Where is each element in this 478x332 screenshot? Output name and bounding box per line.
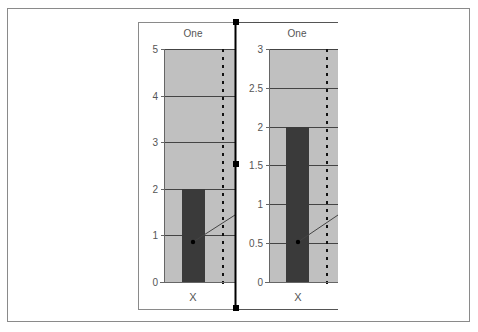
resize-handle-middle[interactable]: [233, 161, 239, 167]
left-chart: One 5 4 3 2 1 0: [139, 23, 236, 310]
left-marker-dot: [191, 240, 195, 244]
tick-label: 5: [152, 44, 158, 55]
right-chart-title: One: [288, 28, 307, 39]
tick-label: 2: [152, 184, 158, 195]
resize-handle-bottom[interactable]: [233, 305, 239, 311]
tick-label: 0: [152, 277, 158, 288]
resize-handle-top[interactable]: [233, 19, 239, 25]
chart-canvas: One 5 4 3 2 1 0: [0, 0, 478, 332]
tick-label: 0.5: [249, 238, 263, 249]
tick-label: 3: [152, 137, 158, 148]
right-x-label: X: [294, 291, 302, 303]
left-bar: [182, 189, 205, 282]
right-y-tick-labels: 3 2.5 2 1.5 1 0.5 0: [249, 44, 263, 288]
tick-label: 3: [257, 44, 263, 55]
tick-label: 0: [257, 277, 263, 288]
tick-label: 2.5: [249, 83, 263, 94]
right-chart: One 3 2.5 2 1.5 1 0.5: [235, 23, 338, 310]
left-x-label: X: [189, 291, 197, 303]
right-marker-dot: [296, 240, 300, 244]
tick-label: 1: [152, 230, 158, 241]
tick-label: 2: [257, 122, 263, 133]
tick-label: 1: [257, 199, 263, 210]
left-chart-title: One: [184, 28, 203, 39]
tick-label: 1.5: [249, 160, 263, 171]
right-bar: [286, 127, 309, 282]
tick-label: 4: [152, 91, 158, 102]
right-tick-marks: [266, 50, 269, 283]
